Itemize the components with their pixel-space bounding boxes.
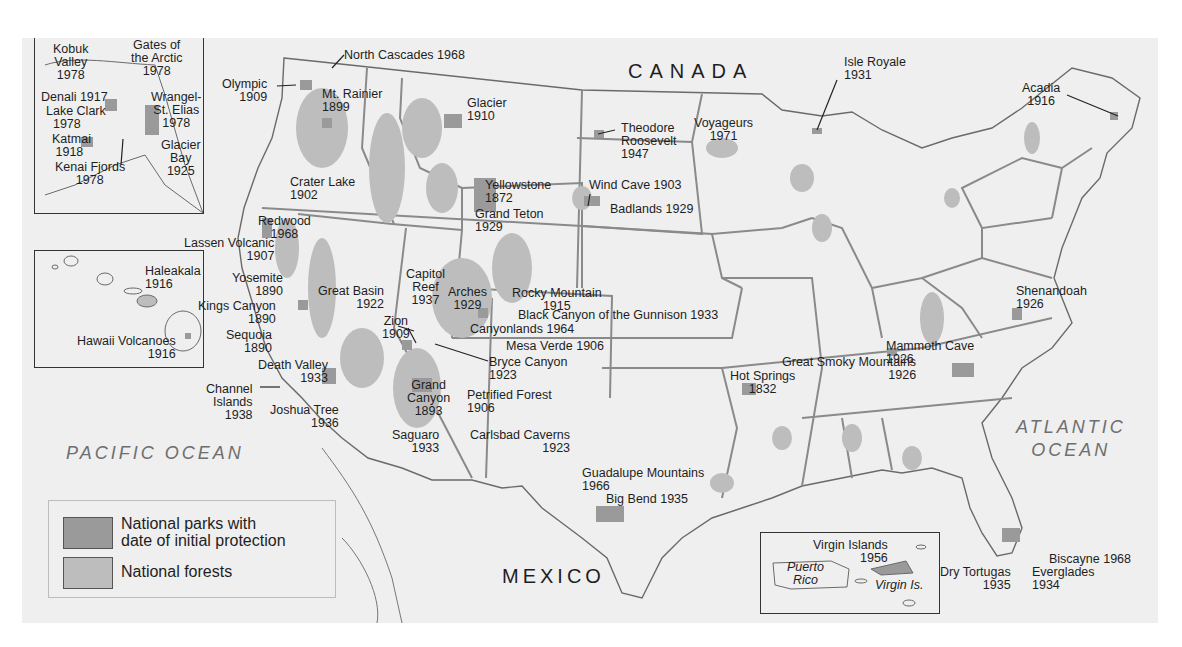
park-label-black-canyon-gunnison: Black Canyon of the Gunnison 1933 [518, 309, 718, 322]
park-label-hawaii-volcanoes: Hawaii Volcanoes 1916 [77, 335, 176, 361]
park-label-canyonlands: Canyonlands 1964 [470, 323, 574, 336]
park-label-zion: Zion 1909 [382, 315, 410, 341]
park-label-guadalupe-mountains: Guadalupe Mountains 1966 [582, 467, 704, 493]
park-label-yosemite: Yosemite 1890 [232, 272, 283, 298]
park-label-acadia: Acadia 1916 [1022, 82, 1060, 108]
park-label-bryce-canyon: Bryce Canyon 1923 [489, 356, 568, 382]
park-label-mt-rainier: Mt. Rainier 1899 [322, 88, 382, 114]
park-label-petrified-forest: Petrified Forest 1906 [467, 389, 552, 415]
park-label-carlsbad-caverns: Carlsbad Caverns 1923 [470, 429, 570, 455]
legend-national-forests-label: National forests [121, 563, 232, 580]
park-label-haleakala: Haleakala 1916 [145, 265, 201, 291]
atlantic-ocean-label: ATLANTIC OCEAN [1016, 416, 1126, 462]
park-label-sequoia: Sequoia 1890 [226, 329, 272, 355]
park-label-badlands: Badlands 1929 [610, 203, 693, 216]
park-label-virgin-islands: Virgin Islands 1956 [813, 539, 888, 565]
park-label-katmai: Katmai 1918 [52, 133, 91, 159]
park-label-voyageurs: Voyageurs 1971 [694, 117, 753, 143]
hawaii-inset: Haleakala 1916 Hawaii Volcanoes 1916 [34, 250, 204, 368]
park-label-dry-tortugas: Dry Tortugas 1935 [940, 566, 1011, 592]
park-label-grand-canyon: Grand Canyon 1893 [407, 379, 450, 418]
park-label-channel-islands: Channel Islands 1938 [206, 383, 253, 422]
caribbean-inset: Puerto Rico Virgin Is. Virgin Islands 19… [760, 532, 940, 614]
park-label-wrangell-st-elias: Wrangel- St. Elias 1978 [151, 91, 201, 130]
park-label-joshua-tree: Joshua Tree 1936 [270, 404, 339, 430]
map-legend: National parks with date of initial prot… [48, 500, 336, 598]
park-label-north-cascades: North Cascades 1968 [344, 49, 465, 62]
park-label-big-bend: Big Bend 1935 [606, 493, 688, 506]
park-label-glacier-bay: Glacier Bay 1925 [161, 139, 201, 178]
park-label-wind-cave: Wind Cave 1903 [589, 179, 681, 192]
park-label-arches: Arches 1929 [448, 286, 487, 312]
mexico-label: MEXICO [502, 565, 605, 588]
canada-label: CANADA [628, 60, 753, 83]
legend-national-parks-label: National parks with date of initial prot… [121, 515, 286, 549]
alaska-inset: Kobuk Valley 1978 Gates of the Arctic 19… [34, 38, 204, 214]
park-label-crater-lake: Crater Lake 1902 [290, 176, 355, 202]
national-parks-map: CANADA MEXICO PACIFIC OCEAN ATLANTIC OCE… [22, 38, 1158, 623]
national-park-swatch [63, 517, 113, 549]
park-label-kobuk-valley: Kobuk Valley 1978 [53, 43, 88, 82]
park-label-everglades: Everglades 1934 [1032, 566, 1095, 592]
park-label-olympic: Olympic 1909 [222, 78, 267, 104]
park-label-gates-of-the-arctic: Gates of the Arctic 1978 [131, 39, 182, 78]
park-label-hot-springs: Hot Springs 1832 [730, 370, 795, 396]
park-label-shenandoah: Shenandoah 1926 [1016, 285, 1087, 311]
park-label-yellowstone: Yellowstone 1872 [485, 179, 551, 205]
virgin-is-label: Virgin Is. [875, 579, 923, 592]
park-label-glacier: Glacier 1910 [467, 97, 507, 123]
park-label-great-smoky-mountains: Great Smoky Mountains 1926 [782, 356, 916, 382]
pacific-ocean-label: PACIFIC OCEAN [66, 442, 244, 465]
park-label-denali: Denali 1917 [41, 91, 108, 104]
park-label-kenai-fjords: Kenai Fjords 1978 [55, 161, 125, 187]
park-label-grand-teton: Grand Teton 1929 [475, 208, 544, 234]
park-label-kings-canyon: Kings Canyon 1890 [198, 300, 276, 326]
park-label-mesa-verde: Mesa Verde 1906 [506, 340, 604, 353]
park-label-saguaro: Saguaro 1933 [392, 429, 439, 455]
park-label-theodore-roosevelt: Theodore Roosevelt 1947 [621, 122, 677, 161]
park-label-lassen-volcanic: Lassen Volcanic 1907 [184, 237, 274, 263]
park-label-capitol-reef: Capitol Reef 1937 [406, 268, 445, 307]
park-label-death-valley: Death Valley 1933 [258, 359, 328, 385]
park-label-great-basin: Great Basin 1922 [318, 285, 384, 311]
park-label-lake-clark: Lake Clark 1978 [46, 105, 106, 131]
park-label-isle-royale: Isle Royale 1931 [844, 56, 906, 82]
national-forest-swatch [63, 557, 113, 589]
